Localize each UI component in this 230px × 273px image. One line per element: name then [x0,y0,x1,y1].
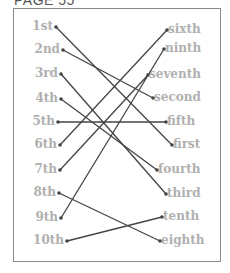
dot-icon [155,168,159,172]
dot-icon [164,192,168,196]
connection-lines [0,0,230,273]
connection-line [61,49,164,218]
dot-icon [56,120,60,124]
connection-line [56,27,172,145]
dot-icon [59,72,63,76]
dot-icon [170,143,174,147]
dot-icon [65,239,69,243]
dot-icon [162,47,166,51]
dot-icon [58,143,62,147]
connection-line [61,74,166,194]
dot-icon [54,25,58,29]
connection-line [59,193,160,241]
dot-icon [59,216,63,220]
dot-icon [59,97,63,101]
dot-icon [158,239,162,243]
dot-icon [160,215,164,219]
dot-icon [164,120,168,124]
dot-icon [61,48,65,52]
connection-line [67,217,162,241]
connection-line [61,99,157,170]
dot-icon [151,96,155,100]
dot-icon [165,28,169,32]
dot-icon [58,168,62,172]
dot-icon [57,191,61,195]
